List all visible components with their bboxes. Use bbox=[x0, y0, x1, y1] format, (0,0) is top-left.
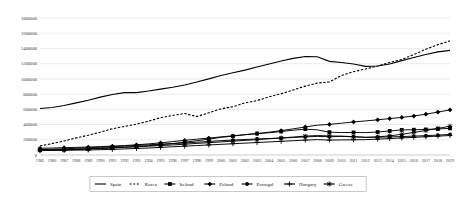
series-marker bbox=[411, 114, 416, 119]
x-axis-tick-label: 1991 bbox=[108, 158, 116, 163]
x-axis-tick-label: 2007 bbox=[301, 158, 309, 163]
y-axis-tick-label: 1800000 bbox=[21, 16, 38, 21]
x-axis-tick-label: 2001 bbox=[229, 158, 237, 163]
legend-label: Greece bbox=[339, 182, 354, 187]
series-marker bbox=[448, 108, 453, 113]
legend: SpainKoreaIrelandPolandPortugalHungaryGr… bbox=[90, 177, 366, 192]
legend-item-portugal[interactable]: Portugal bbox=[242, 182, 275, 187]
series-marker bbox=[328, 130, 332, 134]
x-axis-tick-label: 2005 bbox=[277, 158, 285, 163]
y-axis-tick-label: 1200000 bbox=[21, 61, 38, 66]
x-axis-tick-label: 2003 bbox=[253, 158, 261, 163]
x-axis-tick-label: 2002 bbox=[241, 158, 249, 163]
series-marker bbox=[245, 182, 249, 186]
series-marker bbox=[387, 116, 392, 121]
legend-label: Spain bbox=[110, 182, 122, 187]
x-axis-tick-label: 1988 bbox=[72, 158, 80, 163]
series-marker bbox=[352, 131, 356, 135]
plot-area: 0200000400000600000800000100000012000001… bbox=[0, 0, 456, 206]
x-axis-tick-label: 2014 bbox=[386, 158, 395, 163]
series-marker bbox=[168, 182, 172, 186]
x-axis-tick-label: 2008 bbox=[313, 158, 321, 163]
series-marker bbox=[436, 110, 441, 115]
x-axis-tick-label: 1987 bbox=[60, 158, 68, 163]
legend-label: Portugal bbox=[257, 182, 275, 187]
y-axis-tick-label: 1000000 bbox=[21, 77, 38, 82]
x-axis-tick-label: 1992 bbox=[120, 158, 128, 163]
x-axis-tick-label: 1995 bbox=[156, 158, 164, 163]
legend-label: Hungary bbox=[299, 182, 317, 187]
legend-label: Korea bbox=[145, 182, 158, 187]
chart-svg: 0200000400000600000800000100000012000001… bbox=[0, 0, 456, 206]
series-marker bbox=[400, 128, 404, 132]
series-spain bbox=[40, 50, 450, 108]
x-axis-tick-label: 2006 bbox=[289, 158, 297, 163]
x-axis-labels: 1985198619871988198919901991199219931994… bbox=[36, 158, 454, 163]
x-axis-tick-label: 1993 bbox=[132, 158, 140, 163]
series-marker bbox=[375, 117, 380, 122]
x-axis-tick-label: 2000 bbox=[217, 158, 225, 163]
y-axis-tick-label: 600000 bbox=[23, 107, 37, 112]
x-axis-tick-label: 2004 bbox=[265, 158, 274, 163]
x-axis-tick-label: 1985 bbox=[36, 158, 44, 163]
series-marker bbox=[351, 120, 356, 125]
y-axis-tick-label: 800000 bbox=[23, 92, 37, 97]
x-axis-tick-label: 1996 bbox=[168, 158, 176, 163]
x-axis-tick-label: 2017 bbox=[422, 158, 430, 163]
y-axis-tick-label: 200000 bbox=[23, 137, 37, 142]
x-axis-tick-label: 1998 bbox=[193, 158, 201, 163]
x-axis-tick-label: 1999 bbox=[205, 158, 213, 163]
x-axis-tick-label: 2016 bbox=[410, 158, 418, 163]
line-chart: 0200000400000600000800000100000012000001… bbox=[0, 0, 456, 206]
x-axis-tick-label: 2018 bbox=[434, 158, 442, 163]
y-axis-tick-label: 1400000 bbox=[21, 46, 38, 51]
x-axis-tick-label: 2011 bbox=[349, 158, 357, 163]
y-axis-tick-label: 1600000 bbox=[21, 31, 38, 36]
series-line bbox=[40, 50, 450, 108]
x-axis-tick-label: 1990 bbox=[96, 158, 104, 163]
series-marker bbox=[376, 130, 380, 134]
series-marker bbox=[399, 115, 404, 120]
legend-item-ireland[interactable]: Ireland bbox=[164, 182, 194, 187]
y-axis-tick-label: 400000 bbox=[23, 122, 37, 127]
x-axis-tick-label: 2012 bbox=[361, 158, 369, 163]
x-axis-tick-label: 1997 bbox=[181, 158, 189, 163]
x-axis-tick-label: 2010 bbox=[337, 158, 345, 163]
x-axis-tick-label: 1986 bbox=[48, 158, 56, 163]
legend-label: Ireland bbox=[179, 182, 194, 187]
x-axis-tick-label: 1994 bbox=[144, 158, 153, 163]
series-marker bbox=[327, 122, 332, 127]
legend-label: Poland bbox=[219, 182, 233, 187]
x-axis-tick-label: 1989 bbox=[84, 158, 92, 163]
series-marker bbox=[424, 112, 429, 117]
x-axis-tick-label: 2015 bbox=[398, 158, 406, 163]
x-axis-tick-label: 2019 bbox=[446, 158, 454, 163]
x-axis-tick-label: 2009 bbox=[325, 158, 333, 163]
x-axis-tick-label: 2013 bbox=[373, 158, 381, 163]
series-marker bbox=[388, 129, 392, 133]
